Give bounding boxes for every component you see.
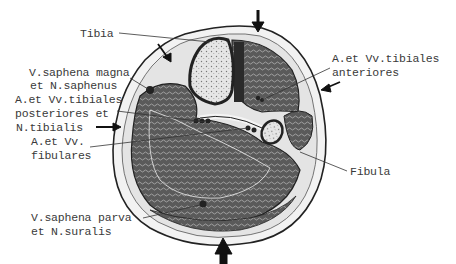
label-tib-post-1: A.et Vv.tibiales	[15, 93, 122, 106]
v-saphena-parva	[200, 201, 207, 208]
v-saphena-magna	[146, 86, 154, 94]
label-tib-post-2: posteriores et	[15, 107, 109, 120]
label-saphena-parva-2: et N.suralis	[31, 225, 111, 238]
label-tib-post-3: N.tibialis	[16, 121, 83, 134]
label-fibulares-2: fibulares	[31, 149, 91, 162]
label-saphena-magna-1: V.saphena magna	[29, 66, 130, 79]
label-tib-ant-1: A.et Vv.tibiales	[332, 52, 439, 65]
label-saphena-parva-1: V.saphena parva	[31, 211, 132, 224]
label-tib-ant-2: anteriores	[332, 66, 399, 79]
arrow-right	[321, 82, 340, 92]
label-saphena-magna-2: et N.saphenus	[30, 79, 117, 92]
label-tibia: Tibia	[80, 27, 114, 40]
label-fibulares-1: A.et Vv.	[31, 135, 85, 148]
label-fibula: Fibula	[350, 165, 390, 178]
